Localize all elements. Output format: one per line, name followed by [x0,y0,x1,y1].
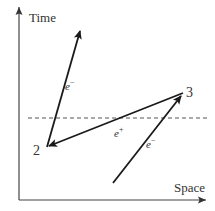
point-3-label: 3 [186,85,193,100]
electron-worldline-out [47,31,80,147]
electron-out-charge: − [70,78,75,87]
electron-in-label: e− [146,136,156,150]
space-axis-label: Space [174,180,205,195]
electron-in-charge: − [151,136,156,145]
point-2-label: 2 [33,143,40,158]
electron-out-label: e− [65,78,75,92]
time-axis-label: Time [29,10,56,25]
positron-charge: + [119,125,124,134]
positron-label: e+ [114,125,124,139]
spacetime-diagram: Time Space 2 3 e− e+ e− [0,0,215,211]
